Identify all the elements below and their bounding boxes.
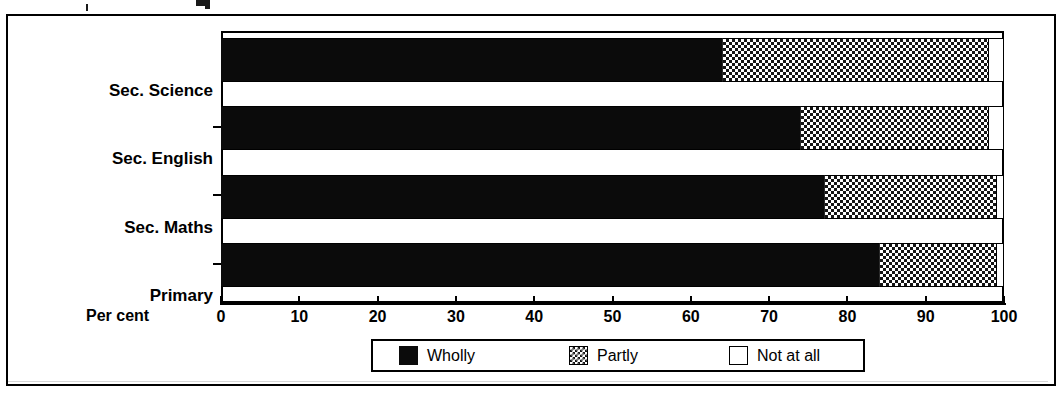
bar-segment-not-at-all: [996, 175, 1004, 219]
x-axis-tick: [533, 296, 535, 305]
y-axis-label-sec-science: Sec. Science: [0, 81, 213, 101]
legend-label-wholly: Wholly: [427, 347, 475, 365]
legend-label-not-at-all: Not at all: [757, 347, 820, 365]
legend-label-partly: Partly: [597, 347, 638, 365]
y-axis-label-sec-maths: Sec. Maths: [0, 218, 213, 238]
bar-row: [221, 106, 1004, 150]
bar-segment-partly: [879, 243, 996, 287]
bar-segment-partly: [800, 106, 988, 150]
bar-segment-wholly: [221, 175, 824, 219]
bar-segment-not-at-all: [988, 106, 1004, 150]
y-axis-labels: Sec. Science Sec. English Sec. Maths Pri…: [0, 31, 213, 303]
bar-segment-wholly: [221, 38, 722, 82]
x-axis-tick-label: 90: [917, 308, 935, 326]
bar-segment-partly: [824, 175, 996, 219]
x-axis-tick-label: 30: [447, 308, 465, 326]
x-axis-tick-label: 100: [991, 308, 1018, 326]
x-axis-tick-label: 40: [525, 308, 543, 326]
bar-row: [221, 175, 1004, 219]
x-axis-tick: [846, 296, 848, 305]
x-axis-tick: [768, 296, 770, 305]
bar-segment-not-at-all: [988, 38, 1004, 82]
scan-artifact: [86, 4, 88, 11]
x-axis-tick: [220, 296, 222, 305]
x-axis-tick: [298, 296, 300, 305]
x-axis-tick: [690, 296, 692, 305]
scan-artifact: [8, 381, 1048, 382]
x-axis-tick: [925, 296, 927, 305]
scan-artifact: [205, 0, 210, 9]
x-axis-tick: [612, 296, 614, 305]
x-axis-tick-label: 10: [290, 308, 308, 326]
x-axis-tick-label: 80: [838, 308, 856, 326]
x-axis-tick-label: 20: [369, 308, 387, 326]
y-axis-label-sec-english: Sec. English: [0, 149, 213, 169]
bar-segment-not-at-all: [996, 243, 1004, 287]
legend: Wholly Partly Not at all: [371, 339, 865, 372]
bar-segment-wholly: [221, 243, 879, 287]
x-axis-tick-label: 0: [217, 308, 226, 326]
solid-black-swatch-icon: [399, 346, 418, 365]
bar-segment-partly: [722, 38, 988, 82]
bar-row: [221, 243, 1004, 287]
chart-figure: Sec. Science Sec. English Sec. Maths Pri…: [0, 0, 1064, 394]
legend-item-not-at-all: Not at all: [729, 346, 820, 365]
checkered-swatch-icon: [569, 346, 588, 365]
x-axis-line: [221, 303, 1006, 305]
bar-segment-wholly: [221, 106, 800, 150]
y-axis-label-primary: Primary: [0, 286, 213, 306]
x-axis-tick-label: 70: [760, 308, 778, 326]
x-axis-tick: [377, 296, 379, 305]
x-axis-tick-label: 60: [682, 308, 700, 326]
legend-item-wholly: Wholly: [399, 346, 475, 365]
x-axis-tick: [455, 296, 457, 305]
bar-row: [221, 38, 1004, 82]
scan-artifact: [196, 0, 205, 6]
x-axis-title: Per cent: [86, 307, 149, 325]
x-axis-tick: [1003, 296, 1005, 305]
x-axis-tick-label: 50: [604, 308, 622, 326]
legend-item-partly: Partly: [569, 346, 638, 365]
empty-swatch-icon: [729, 346, 748, 365]
